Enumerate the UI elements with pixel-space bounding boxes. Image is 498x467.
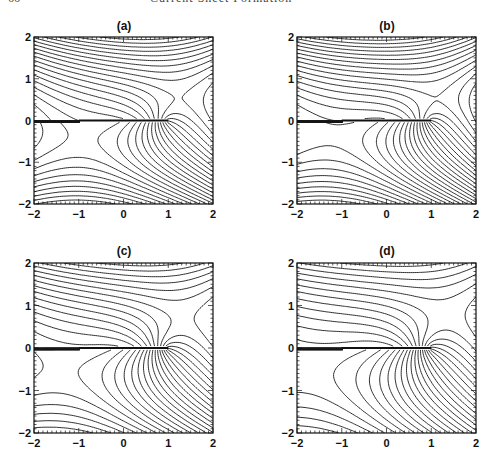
- y-tick-label: −2: [281, 427, 294, 439]
- contour-plot-d: −2−1012−2−1012: [0, 0, 498, 467]
- y-tick-label: 0: [288, 342, 294, 354]
- x-tick-label: 0: [383, 437, 389, 449]
- x-tick-label: −1: [335, 437, 348, 449]
- x-tick-label: 2: [473, 437, 479, 449]
- y-tick-label: −1: [281, 385, 294, 397]
- y-tick-label: 2: [288, 257, 294, 269]
- y-tick-label: 1: [288, 300, 294, 312]
- x-tick-label: 1: [428, 437, 434, 449]
